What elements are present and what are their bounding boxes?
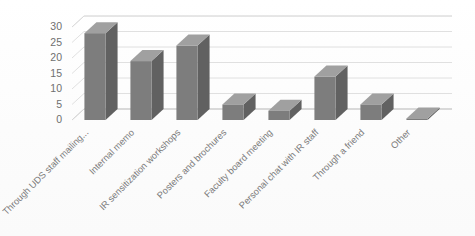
y-axis-tick-label: 10: [50, 82, 62, 94]
bar-front-face: [222, 105, 243, 121]
bar-front-face: [314, 77, 335, 120]
bar-side-face: [152, 50, 164, 120]
bars: [84, 22, 439, 120]
x-axis-tick-label: Through UDS staff mailing...: [1, 127, 91, 217]
y-axis-tick-label: 5: [56, 98, 62, 110]
gridline-riser: [72, 109, 84, 120]
bar[interactable]: [314, 66, 347, 120]
gridline-riser: [72, 16, 84, 27]
bar[interactable]: [84, 22, 117, 120]
gridline-riser: [72, 78, 84, 89]
y-axis-tick-label: 0: [56, 113, 62, 125]
gridline-riser: [72, 63, 84, 74]
bar-front-face: [130, 61, 151, 120]
x-axis-tick-label: Personal chat with IR staff: [237, 127, 321, 211]
y-axis-tick-labels: 051015202530: [50, 20, 62, 125]
x-axis-tick-labels: Through UDS staff mailing...Internal mem…: [1, 127, 413, 217]
y-axis-tick-label: 25: [50, 36, 62, 48]
gridline-riser: [72, 32, 84, 43]
bar-front-face: [406, 118, 427, 120]
bar-front-face: [360, 105, 381, 121]
bar[interactable]: [268, 100, 301, 120]
gridline-riser: [72, 94, 84, 105]
bar[interactable]: [130, 50, 163, 120]
bar[interactable]: [360, 94, 393, 121]
bar-front-face: [268, 111, 289, 120]
x-axis-tick-label: Through a friend: [311, 127, 366, 182]
bar-side-face: [106, 22, 118, 120]
y-axis-tick-label: 20: [50, 51, 62, 63]
gridline-riser: [72, 47, 84, 58]
bar-front-face: [84, 33, 105, 120]
x-axis-tick-label: Internal memo: [87, 127, 136, 176]
bar[interactable]: [222, 94, 255, 121]
x-axis-tick-label: Other: [389, 127, 413, 151]
chart-canvas: 051015202530Through UDS staff mailing...…: [0, 0, 475, 236]
gridlines: [72, 16, 452, 120]
bar-side-face: [198, 35, 210, 120]
bar[interactable]: [176, 35, 209, 120]
y-axis-tick-label: 30: [50, 20, 62, 32]
x-axis-tick-label: IR sensitization workshops: [98, 127, 183, 212]
bar-front-face: [176, 46, 197, 120]
bar-chart: 051015202530Through UDS staff mailing...…: [0, 0, 475, 236]
y-axis-tick-label: 15: [50, 67, 62, 79]
